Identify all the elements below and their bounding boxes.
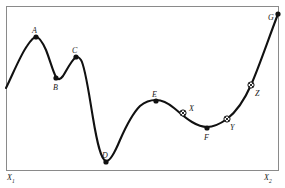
data-point-marker-e — [153, 98, 158, 103]
diagram-canvas — [0, 0, 285, 188]
axis-label-x2-sub: 2 — [269, 178, 272, 184]
figure-frame — [7, 7, 279, 171]
data-point-marker-g — [275, 11, 280, 16]
curve-diagram-figure: ABCDEFGXYZ X1 X2 — [0, 0, 285, 188]
data-point-marker-a — [33, 34, 38, 39]
point-label-y: Y — [230, 124, 234, 132]
function-curve — [6, 14, 278, 161]
data-point-marker-f — [204, 125, 209, 130]
axis-label-x1: X1 — [7, 174, 15, 184]
data-point-marker-y — [224, 116, 230, 122]
point-label-f: F — [204, 134, 209, 142]
point-label-e: E — [152, 91, 157, 99]
data-point-marker-c — [73, 54, 78, 59]
axis-label-x1-sub: 1 — [12, 178, 15, 184]
data-point-marker-b — [53, 75, 58, 80]
axis-label-x2: X2 — [264, 174, 272, 184]
data-point-marker-z — [248, 82, 254, 88]
point-label-x: X — [189, 105, 194, 113]
point-label-c: C — [72, 47, 77, 55]
point-label-a: A — [32, 27, 37, 35]
point-label-b: B — [53, 84, 58, 92]
data-point-marker-x — [180, 110, 186, 116]
point-label-g: G — [268, 14, 274, 22]
data-point-marker-d — [103, 159, 108, 164]
point-label-z: Z — [255, 90, 259, 98]
point-markers-group — [33, 11, 280, 164]
point-label-d: D — [102, 152, 108, 160]
